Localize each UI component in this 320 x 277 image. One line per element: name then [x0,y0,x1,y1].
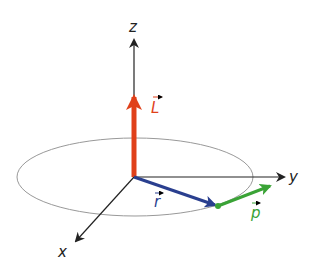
angular-momentum-diagram: z y x L r p [0,0,320,277]
x-axis [76,177,134,241]
x-axis-label: x [57,243,67,261]
angular-momentum-label: L [151,99,159,117]
y-axis-label: y [288,168,299,186]
particle-dot [215,203,221,209]
position-vector [134,177,215,205]
z-axis-label: z [128,18,138,36]
position-label: r [154,193,161,211]
momentum-vector [218,186,270,206]
momentum-label: p [250,204,261,222]
